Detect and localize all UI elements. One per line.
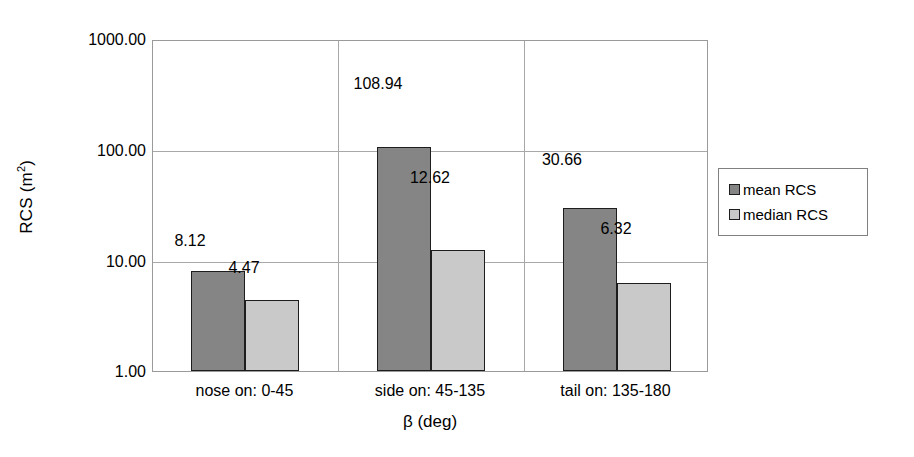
bar-median-nose-on xyxy=(245,300,299,372)
bar-value-label-mean-side-on: 108.94 xyxy=(323,76,433,92)
x-axis-title: β (deg) xyxy=(152,412,708,432)
y-tick-label-10: 10.00 xyxy=(58,254,146,270)
rcs-bar-chart-figure: RCS (m2) 1000.00 100.00 10.00 1.00 8.12 … xyxy=(0,0,914,457)
bar-value-label-mean-tail-on: 30.66 xyxy=(522,152,602,168)
y-axis-title: RCS (m2) xyxy=(15,127,37,267)
bar-mean-nose-on xyxy=(191,271,245,371)
legend-label-mean-rcs: mean RCS xyxy=(743,181,816,198)
y-axis-title-base: RCS (m xyxy=(17,172,36,234)
y-axis-tick-labels: 1000.00 100.00 10.00 1.00 xyxy=(56,0,146,457)
y-axis-title-exponent: 2 xyxy=(15,166,27,172)
x-tick-label-side-on: side on: 45-135 xyxy=(337,382,523,400)
y-tick-label-1000: 1000.00 xyxy=(58,32,146,48)
legend-swatch-mean-rcs-icon xyxy=(729,184,740,195)
y-tick-label-100: 100.00 xyxy=(58,143,146,159)
bar-value-label-mean-nose-on: 8.12 xyxy=(150,233,230,249)
x-tick-label-nose-on: nose on: 0-45 xyxy=(152,382,337,400)
bar-value-label-median-nose-on: 4.47 xyxy=(204,260,284,276)
legend-label-median-rcs: median RCS xyxy=(743,206,828,223)
legend-item-mean-rcs[interactable]: mean RCS xyxy=(729,177,867,202)
bar-value-label-median-side-on: 12.62 xyxy=(390,170,470,186)
legend-item-median-rcs[interactable]: median RCS xyxy=(729,202,867,227)
bar-value-label-median-tail-on: 6.32 xyxy=(576,221,656,237)
bar-median-side-on xyxy=(431,250,485,371)
chart-legend: mean RCS median RCS xyxy=(718,168,868,236)
legend-swatch-median-rcs-icon xyxy=(729,209,740,220)
category-divider-2 xyxy=(524,41,525,371)
bar-median-tail-on xyxy=(617,283,671,371)
x-tick-label-tail-on: tail on: 135-180 xyxy=(523,382,708,400)
y-tick-label-1: 1.00 xyxy=(58,364,146,380)
y-axis-title-tail: ) xyxy=(17,160,36,166)
